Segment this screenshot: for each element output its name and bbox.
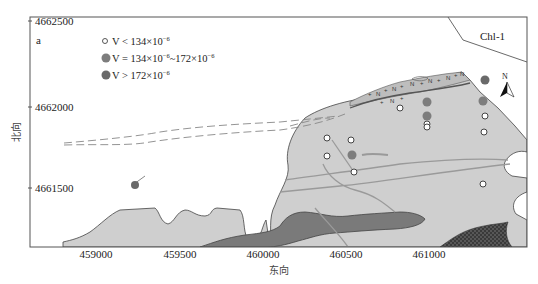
svg-text:+: + — [400, 95, 404, 101]
svg-text:+: + — [368, 91, 372, 97]
svg-text:N: N — [410, 81, 414, 87]
sample-point-open[interactable] — [397, 105, 403, 111]
sample-point-open[interactable] — [348, 137, 354, 143]
sample-point-medium[interactable] — [423, 112, 432, 121]
legend-open-circle-icon — [103, 39, 108, 44]
svg-text:+: + — [384, 87, 388, 93]
svg-text:N: N — [460, 71, 464, 77]
x-tick-label: 460500 — [330, 248, 364, 260]
sample-point-open[interactable] — [480, 181, 486, 187]
sample-point-medium[interactable] — [423, 98, 432, 107]
sample-point-dark[interactable] — [131, 181, 139, 189]
y-tick-label: 4662000 — [35, 101, 74, 113]
sample-point-open[interactable] — [481, 129, 487, 135]
x-tick-label: 460000 — [247, 248, 281, 260]
legend-medium-circle-icon — [102, 54, 111, 63]
svg-text:+: + — [380, 99, 384, 105]
legend-item-medium: V = 134×10−6~172×10−6 — [112, 52, 215, 64]
north-arrow-icon — [500, 82, 507, 97]
x-tick-label: 459000 — [80, 248, 114, 260]
y-tick-label: 4662500 — [35, 15, 74, 27]
sample-point-open[interactable] — [482, 113, 488, 119]
sample-point-open[interactable] — [324, 153, 330, 159]
y-tick-label: 4661500 — [35, 182, 74, 194]
geologic-map-figure: +N +N +N +N +N +N +N + — [0, 0, 538, 284]
y-axis-title: 北向 — [10, 122, 22, 142]
svg-text:+: + — [437, 77, 441, 83]
x-tick-label: 459500 — [164, 248, 198, 260]
svg-text:N: N — [428, 78, 432, 84]
svg-text:N: N — [446, 75, 450, 81]
legend-item-high: V > 172×10−6 — [112, 69, 170, 81]
sample-point-open[interactable] — [324, 135, 330, 141]
y-axis: 4662500 4662000 4661500 北向 — [10, 15, 74, 194]
chl-1-label: Chl-1 — [480, 30, 505, 42]
svg-text:+: + — [454, 72, 458, 78]
x-axis-title: 东向 — [269, 264, 289, 276]
svg-text:N: N — [376, 91, 380, 97]
svg-text:+: + — [400, 83, 404, 89]
svg-text:N: N — [392, 86, 396, 92]
map-body: +N +N +N +N +N +N +N + — [63, 71, 527, 247]
sample-point-dark[interactable] — [481, 76, 490, 85]
sample-point-medium[interactable] — [479, 97, 488, 106]
x-tick-label: 461000 — [413, 248, 447, 260]
sample-point-open[interactable] — [424, 124, 430, 130]
panel-label: a — [36, 34, 41, 46]
legend: V < 134×10−6 V = 134×10−6~172×10−6 V > 1… — [102, 35, 216, 81]
svg-text:N: N — [390, 98, 394, 104]
legend-item-low: V < 134×10−6 — [112, 35, 170, 47]
north-arrow-label: N — [502, 72, 508, 81]
sample-point-medium[interactable] — [348, 151, 357, 160]
north-arrow: N — [500, 72, 514, 97]
sample-point-open[interactable] — [351, 169, 357, 175]
svg-text:+: + — [420, 80, 424, 86]
legend-dark-circle-icon — [102, 71, 111, 80]
x-axis: 459000 459500 460000 460500 461000 东向 — [80, 248, 447, 276]
